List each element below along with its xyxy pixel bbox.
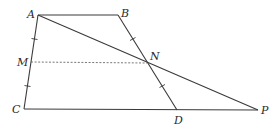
point-label-M: M	[16, 56, 29, 69]
tick-mark-AM	[32, 39, 38, 40]
trapezoid-diagram: A B M N C D P	[0, 0, 279, 129]
point-label-A: A	[26, 8, 35, 21]
point-label-D: D	[173, 114, 183, 127]
point-label-C: C	[12, 103, 21, 116]
point-label-P: P	[260, 104, 269, 117]
point-label-N: N	[149, 50, 160, 63]
point-label-B: B	[120, 7, 129, 20]
segment-CP	[24, 109, 258, 110]
segment-MN-dashed	[31, 62, 147, 63]
tick-mark-MC	[25, 86, 31, 87]
